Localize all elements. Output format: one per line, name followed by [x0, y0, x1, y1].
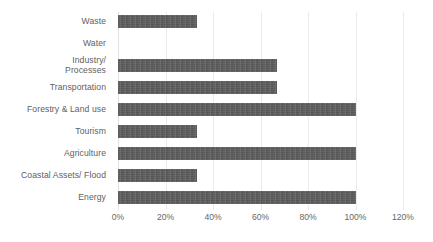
- xtick-label: 20%: [142, 212, 190, 223]
- bar-tourism: [118, 125, 197, 138]
- xtick-label: 80%: [284, 212, 332, 223]
- category-label: Industry/ Processes: [0, 56, 106, 75]
- bar-chart: Waste Water Industry/ Processes Transpor…: [0, 0, 433, 242]
- value-axis: 0% 20% 40% 60% 80% 100% 120%: [118, 212, 403, 232]
- xtick-label: 120%: [379, 212, 427, 223]
- xtick-label: 0%: [94, 212, 142, 223]
- category-label: Coastal Assets/ Flood: [0, 171, 106, 181]
- category-label: Energy: [0, 193, 106, 203]
- category-label: Forestry & Land use: [0, 105, 106, 115]
- category-label: Agriculture: [0, 149, 106, 159]
- bar-coastal-assets: [118, 169, 197, 182]
- plot-area: [118, 12, 403, 210]
- category-label: Transportation: [0, 83, 106, 93]
- bar-energy: [118, 191, 356, 204]
- bar-waste: [118, 15, 197, 28]
- bar-transportation: [118, 81, 277, 94]
- xtick-label: 60%: [237, 212, 285, 223]
- category-axis: Waste Water Industry/ Processes Transpor…: [0, 12, 112, 210]
- gridline-100: [356, 12, 357, 210]
- bar-agriculture: [118, 147, 356, 160]
- category-label: Water: [0, 39, 106, 49]
- category-label: Waste: [0, 17, 106, 27]
- bar-forestry: [118, 103, 356, 116]
- xtick-label: 100%: [332, 212, 380, 223]
- category-label: Tourism: [0, 127, 106, 137]
- gridline-120: [403, 12, 404, 210]
- bar-industry: [118, 59, 277, 72]
- xtick-label: 40%: [189, 212, 237, 223]
